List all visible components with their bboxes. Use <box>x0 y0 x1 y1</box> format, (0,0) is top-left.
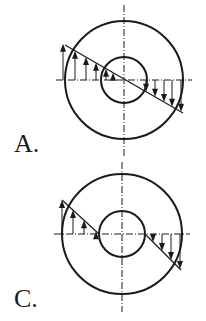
arrow-down-icon <box>150 234 156 242</box>
arrow-down-icon <box>159 243 165 251</box>
torsion-stress-diagrams <box>0 0 206 321</box>
arrow-down-icon <box>168 252 174 260</box>
stress-distribution-line-left <box>62 200 99 234</box>
figure-c-label: C. <box>14 286 38 312</box>
figure-c-hollow-shaft-stress <box>54 162 190 312</box>
figure-a-hollow-shaft-stress <box>56 5 192 157</box>
arrow-down-icon <box>177 261 183 269</box>
stress-distribution-line-right <box>145 234 181 270</box>
figure-a-label: A. <box>14 131 39 157</box>
